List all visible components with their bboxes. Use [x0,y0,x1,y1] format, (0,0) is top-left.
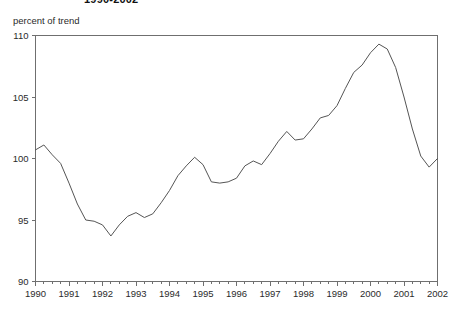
plot-frame [36,36,438,282]
x-tick-label: 1998 [293,288,314,299]
x-axis-tick-labels: 1990199119921993199419951996199719981999… [25,288,448,299]
y-tick-label: 110 [13,30,28,41]
x-tick-label: 1994 [159,288,180,299]
chart-container: 1990-2002 percent of trend 9095100105110… [0,0,449,312]
x-axis-ticks [36,282,438,286]
y-axis-tick-labels: 9095100105110 [13,30,29,287]
x-tick-label: 2000 [360,288,381,299]
x-tick-label: 1991 [58,288,79,299]
y-tick-label: 105 [13,92,29,103]
x-tick-label: 1992 [92,288,113,299]
x-tick-label: 2001 [393,288,414,299]
x-tick-label: 1990 [25,288,46,299]
x-tick-label: 1999 [326,288,347,299]
x-tick-label: 1995 [192,288,213,299]
y-tick-label: 100 [13,153,29,164]
x-tick-label: 1993 [125,288,146,299]
x-tick-label: 2002 [427,288,448,299]
x-tick-label: 1997 [259,288,280,299]
chart-plot-area: 9095100105110 19901991199219931994199519… [0,0,449,312]
x-tick-label: 1996 [226,288,247,299]
data-series-line [36,44,438,236]
y-tick-label: 95 [18,215,29,226]
y-tick-label: 90 [18,276,29,287]
y-axis-ticks [32,36,36,282]
